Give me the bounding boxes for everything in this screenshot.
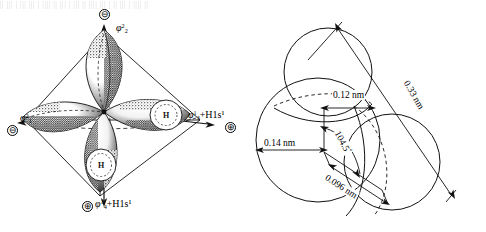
dimension-label-0-14: 0.14 nm: [263, 138, 296, 148]
sp3-hybrid-orbital-panel: ⊖ ⊖ ⊕ ⊕ φ22 φ21 φ13+H1s¹ φ14+H1s¹ H H: [0, 0, 250, 232]
dimension-label-0-12: 0.12 nm: [332, 90, 365, 100]
charge-plus-right: ⊕: [225, 122, 236, 133]
orbital-label-right-suffix: +H1s¹: [200, 109, 225, 120]
orbital-label-bottom-suffix: +H1s¹: [107, 198, 132, 209]
sphere-intersection-arcs: [274, 104, 372, 216]
spacefill-diagram-svg: [250, 0, 486, 232]
phi-sub-top: 2: [125, 27, 128, 34]
phi-sub-left: 1: [29, 117, 32, 124]
orbital-label-right: φ13+H1s¹: [188, 110, 225, 121]
orbital-label-top: φ22: [116, 23, 128, 34]
figure-root: || ||| | ||| ||| | |||| || ||| | ||| || …: [0, 0, 486, 232]
charge-minus-top: ⊖: [99, 9, 110, 20]
charge-minus-left: ⊖: [7, 125, 18, 136]
hydrogen-label-bottom: H: [98, 161, 104, 170]
space-filling-model-panel: 0.12 nm 0.33 nm 0.14 nm 0.096 nm 104.5°: [250, 0, 486, 232]
orbital-label-bottom: φ14+H1s¹: [95, 199, 132, 210]
orbital-label-left: φ21: [20, 113, 32, 124]
sphere-hydrogen-upper: [284, 28, 372, 116]
oxygen-nucleus-dot: [102, 110, 107, 115]
sphere-intersection-hidden-arcs: [274, 94, 387, 216]
charge-plus-bottom: ⊕: [82, 201, 93, 212]
hydrogen-label-right: H: [163, 111, 169, 120]
